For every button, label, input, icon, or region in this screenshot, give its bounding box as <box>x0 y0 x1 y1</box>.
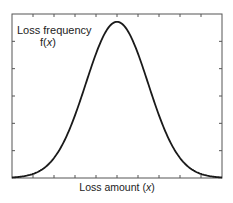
x-axis-label: Loss amount (x) <box>79 181 154 193</box>
y-axis-label-line1: Loss frequency <box>17 24 92 36</box>
chart: Loss frequency f(x) Loss amount (x) <box>0 0 233 203</box>
y-axis-label-line2: f(x) <box>40 36 56 48</box>
